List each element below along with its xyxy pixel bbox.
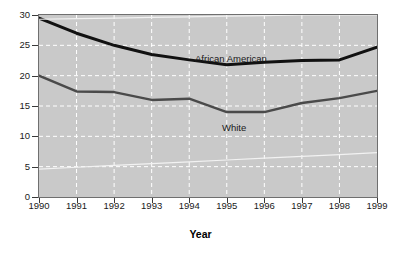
x-tick-mark xyxy=(227,198,228,203)
y-tick-mark xyxy=(32,76,38,77)
y-tick-label: 25 xyxy=(0,40,30,50)
y-axis: 051015202530 xyxy=(0,0,34,256)
y-tick-label: 15 xyxy=(0,101,30,111)
y-tick-mark xyxy=(32,15,38,16)
x-tick-mark xyxy=(77,198,78,203)
series-label-white: White xyxy=(222,123,246,133)
y-tick-label: 20 xyxy=(0,71,30,81)
x-tick-mark xyxy=(189,198,190,203)
plot-area xyxy=(38,14,378,198)
x-axis-title: Year xyxy=(0,228,401,240)
y-tick-label: 30 xyxy=(0,10,30,20)
x-axis: 1990199119921993199419951996199719981999 xyxy=(0,201,401,217)
x-tick-mark xyxy=(339,198,340,203)
y-tick-mark xyxy=(32,45,38,46)
series-line-artifact-line xyxy=(39,15,377,19)
y-tick-label: 5 xyxy=(0,162,30,172)
y-tick-label: 10 xyxy=(0,131,30,141)
line-chart: 051015202530 199019911992199319941995199… xyxy=(0,0,401,256)
x-tick-mark xyxy=(377,198,378,203)
series-label-african-american: African American xyxy=(195,54,267,64)
x-tick-mark xyxy=(39,198,40,203)
x-tick-mark xyxy=(264,198,265,203)
y-tick-mark xyxy=(32,136,38,137)
series-line-white xyxy=(39,76,377,112)
y-tick-mark xyxy=(32,167,38,168)
x-tick-mark xyxy=(114,198,115,203)
x-tick-mark xyxy=(152,198,153,203)
y-tick-mark xyxy=(32,197,38,198)
series-lines xyxy=(39,15,377,169)
x-tick-mark xyxy=(302,198,303,203)
plot-svg xyxy=(39,15,377,197)
y-tick-mark xyxy=(32,106,38,107)
